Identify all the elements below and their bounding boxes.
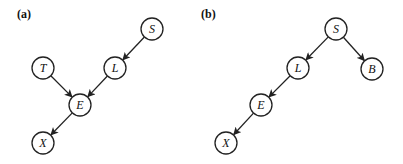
edge-s-to-b (343, 37, 364, 60)
graph-panel-a: SLTEX (32, 18, 163, 154)
node-s: S (325, 18, 347, 40)
edge-l-to-e (269, 76, 290, 97)
edge-e-to-x (234, 113, 254, 134)
node-x: X (32, 132, 54, 154)
node-e: E (69, 94, 91, 116)
node-x: X (215, 132, 237, 154)
node-e: E (250, 94, 272, 116)
panel-label-a: (a) (17, 7, 31, 22)
diagram-canvas: (a) (b) SLTEX SLBEX (0, 0, 403, 164)
node-s: S (141, 18, 163, 40)
edge-e-to-x (51, 113, 72, 135)
graph-panel-b: SLBEX (215, 18, 383, 154)
bayesian-network-graphs: SLTEX SLBEX (0, 0, 403, 164)
node-label: E (256, 98, 265, 112)
node-label: X (221, 136, 230, 150)
node-b: B (361, 58, 383, 80)
node-label: S (333, 22, 339, 36)
node-label: L (294, 61, 302, 75)
panel-label-b: (b) (201, 7, 216, 22)
node-label: X (38, 136, 47, 150)
edge-l-to-e (88, 76, 108, 97)
node-t: T (32, 57, 54, 79)
node-label: S (149, 22, 155, 36)
edge-t-to-e (51, 76, 72, 97)
node-label: B (368, 62, 376, 76)
node-label: E (75, 98, 84, 112)
edge-s-to-l (306, 37, 328, 60)
edge-s-to-l (123, 37, 144, 60)
node-l: L (287, 57, 309, 79)
node-label: L (111, 61, 119, 75)
node-l: L (104, 57, 126, 79)
